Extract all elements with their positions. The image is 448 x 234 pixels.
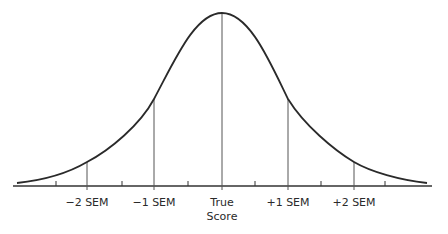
label-plus-2-sem: +2 SEM xyxy=(332,196,375,210)
label-minus-1-sem: −1 SEM xyxy=(132,196,175,210)
label-minus-2-sem: −2 SEM xyxy=(65,196,108,210)
label-true-score-line2: Score xyxy=(207,210,238,224)
label-true-score-line1: True xyxy=(207,196,238,210)
label-true-score: True Score xyxy=(207,196,238,224)
sem-lines xyxy=(87,13,354,190)
label-plus-1-sem: +1 SEM xyxy=(266,196,309,210)
minor-ticks xyxy=(56,181,385,186)
